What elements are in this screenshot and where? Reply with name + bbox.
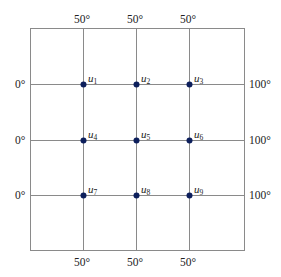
node-label-u5: u5: [141, 129, 150, 142]
node-label-u1: u1: [88, 73, 97, 86]
node-label-u2: u2: [141, 73, 150, 86]
right-boundary-label-2: 100°: [249, 135, 271, 147]
node-label-u9: u9: [194, 184, 203, 197]
bottom-boundary-label-1: 50°: [74, 257, 90, 269]
node-dot-u3: [187, 82, 193, 88]
top-boundary-label-3: 50°: [180, 14, 196, 26]
left-boundary-label-1: 0°: [15, 79, 25, 91]
node-dot-u7: [81, 193, 87, 199]
node-dot-u2: [134, 82, 140, 88]
node-dot-u1: [81, 82, 87, 88]
right-boundary-label-1: 100°: [249, 79, 271, 91]
top-boundary-label-1: 50°: [74, 14, 90, 26]
node-label-u3: u3: [194, 73, 203, 86]
bottom-boundary-label-2: 50°: [127, 257, 143, 269]
bottom-boundary-label-3: 50°: [180, 257, 196, 269]
node-label-u7: u7: [88, 184, 97, 197]
right-boundary-label-3: 100°: [249, 190, 271, 202]
left-boundary-label-2: 0°: [15, 135, 25, 147]
node-dot-u5: [134, 138, 140, 144]
node-dot-u6: [187, 138, 193, 144]
node-dot-u4: [81, 138, 87, 144]
node-dot-u9: [187, 193, 193, 199]
node-label-u6: u6: [194, 129, 203, 142]
node-label-u8: u8: [141, 184, 150, 197]
node-dot-u8: [134, 193, 140, 199]
node-label-u4: u4: [88, 129, 97, 142]
left-boundary-label-3: 0°: [15, 190, 25, 202]
top-boundary-label-2: 50°: [127, 14, 143, 26]
